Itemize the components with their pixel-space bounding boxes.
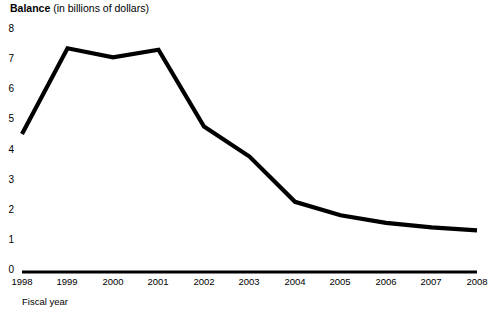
x-tick-label-2004: 2004	[273, 277, 317, 287]
y-tick-label-1: 1	[0, 235, 14, 245]
x-tick-label-2003: 2003	[227, 277, 271, 287]
chart-container: Balance (in billions of dollars) 8 7 6 5…	[0, 0, 499, 318]
x-tick-label-1999: 1999	[45, 277, 89, 287]
y-tick-label-6: 6	[0, 84, 14, 94]
x-tick-label-2000: 2000	[91, 277, 135, 287]
y-tick-label-4: 4	[0, 145, 14, 155]
x-tick-label-2005: 2005	[318, 277, 362, 287]
plot-area: 8 7 6 5 4 3 2 1 0 1998 1999 2000 2001 20…	[0, 0, 499, 318]
x-tick-label-2002: 2002	[182, 277, 226, 287]
y-tick-label-2: 2	[0, 205, 14, 215]
y-tick-label-3: 3	[0, 175, 14, 185]
x-tick-label-2007: 2007	[409, 277, 453, 287]
data-series-balance-line	[22, 48, 477, 230]
x-axis-title: Fiscal year	[22, 296, 68, 307]
y-tick-label-8: 8	[0, 24, 14, 34]
chart-plot-svg	[0, 0, 499, 318]
y-tick-label-7: 7	[0, 54, 14, 64]
y-tick-label-0: 0	[0, 265, 14, 275]
x-tick-label-2008: 2008	[455, 277, 499, 287]
x-tick-label-1998: 1998	[0, 277, 44, 287]
x-tick-label-2006: 2006	[364, 277, 408, 287]
x-tick-label-2001: 2001	[136, 277, 180, 287]
y-tick-label-5: 5	[0, 114, 14, 124]
